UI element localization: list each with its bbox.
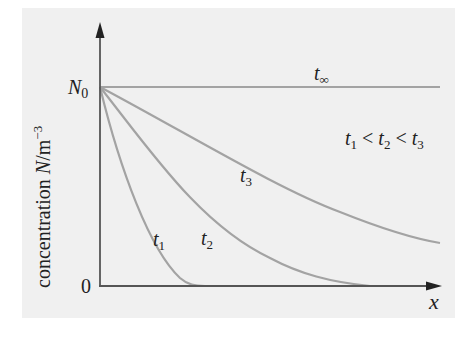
concentration-diagram: concentration N/m−3 N0 0 x t∞ t3 t2 t1 t… [0,0,471,337]
curve-t3 [100,87,440,243]
time-order-annotation: t1 < t2 < t3 [345,127,424,152]
y-tick-n0: N0 [67,76,88,101]
label-t-infinity: t∞ [314,62,329,87]
curve-t2 [100,87,370,286]
y-tick-zero: 0 [81,275,91,297]
label-t2: t2 [201,227,213,252]
y-axis-arrowhead-icon [96,22,105,38]
label-t1: t1 [153,228,165,253]
x-axis-label: x [428,289,439,314]
y-axis-label: concentration N/m−3 [30,126,54,288]
